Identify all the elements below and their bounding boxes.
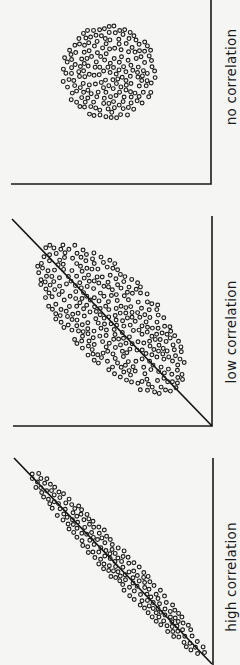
data-point bbox=[106, 65, 110, 69]
data-point bbox=[148, 344, 152, 348]
data-point bbox=[67, 527, 71, 531]
data-point bbox=[54, 302, 58, 306]
data-point bbox=[75, 318, 79, 322]
data-point bbox=[138, 49, 142, 53]
data-point bbox=[72, 79, 76, 83]
data-point bbox=[150, 302, 154, 306]
data-point bbox=[64, 309, 68, 313]
data-point bbox=[162, 316, 166, 320]
data-point bbox=[112, 100, 116, 104]
data-point bbox=[147, 308, 151, 312]
data-point bbox=[74, 51, 78, 55]
data-point bbox=[70, 72, 74, 76]
data-point bbox=[132, 329, 136, 333]
data-point bbox=[140, 357, 144, 361]
data-point bbox=[68, 48, 72, 52]
data-point bbox=[42, 495, 46, 499]
data-point bbox=[59, 308, 63, 312]
data-point bbox=[122, 294, 126, 298]
data-point bbox=[159, 385, 163, 389]
data-point bbox=[64, 71, 68, 75]
data-point bbox=[88, 522, 92, 526]
data-point bbox=[131, 68, 135, 72]
data-point bbox=[122, 370, 126, 374]
data-point bbox=[111, 352, 115, 356]
data-point bbox=[39, 477, 43, 481]
data-point bbox=[150, 59, 154, 63]
data-point bbox=[94, 106, 98, 110]
data-point bbox=[128, 31, 132, 35]
data-point bbox=[90, 531, 94, 535]
data-point bbox=[103, 37, 107, 41]
data-point bbox=[172, 635, 176, 639]
data-point bbox=[75, 304, 79, 308]
data-point bbox=[79, 264, 83, 268]
data-point bbox=[30, 477, 34, 481]
data-point bbox=[156, 326, 160, 330]
data-point bbox=[104, 52, 108, 56]
data-point bbox=[132, 598, 136, 602]
data-point bbox=[77, 70, 81, 74]
data-point bbox=[82, 314, 86, 318]
data-point bbox=[113, 560, 117, 564]
data-point bbox=[121, 33, 125, 37]
data-point bbox=[122, 588, 126, 592]
data-point bbox=[124, 83, 128, 87]
data-point bbox=[159, 588, 163, 592]
data-point bbox=[58, 314, 62, 318]
data-point bbox=[97, 550, 101, 554]
data-point bbox=[158, 602, 162, 606]
data-point bbox=[164, 601, 168, 605]
data-point bbox=[62, 67, 66, 71]
data-point bbox=[142, 571, 146, 575]
data-point bbox=[107, 84, 111, 88]
data-point bbox=[102, 102, 106, 106]
data-point bbox=[105, 534, 109, 538]
data-point bbox=[122, 280, 126, 284]
data-point bbox=[86, 321, 90, 325]
data-point bbox=[85, 303, 89, 307]
data-point bbox=[73, 43, 77, 47]
data-point bbox=[100, 536, 104, 540]
data-point bbox=[114, 72, 118, 76]
data-point bbox=[136, 381, 140, 385]
data-point bbox=[101, 351, 105, 355]
data-point bbox=[94, 310, 98, 314]
data-point bbox=[125, 378, 129, 382]
data-point bbox=[114, 576, 118, 580]
data-point bbox=[107, 315, 111, 319]
data-point bbox=[161, 347, 165, 351]
data-point bbox=[92, 296, 96, 300]
data-point bbox=[68, 305, 72, 309]
data-point bbox=[75, 324, 79, 328]
data-point bbox=[86, 551, 90, 555]
data-point bbox=[70, 328, 74, 332]
data-point bbox=[103, 27, 107, 31]
data-point bbox=[45, 477, 49, 481]
data-point bbox=[127, 561, 131, 565]
data-point bbox=[91, 519, 95, 523]
data-point bbox=[124, 311, 128, 315]
data-point bbox=[82, 50, 86, 54]
data-point bbox=[39, 283, 43, 287]
data-point bbox=[149, 595, 153, 599]
data-point bbox=[87, 273, 91, 277]
data-point bbox=[142, 365, 146, 369]
data-point bbox=[63, 507, 67, 511]
data-point bbox=[43, 280, 47, 284]
data-point bbox=[62, 298, 66, 302]
data-point bbox=[153, 76, 157, 80]
data-point bbox=[56, 263, 60, 267]
data-point bbox=[99, 55, 103, 59]
data-point bbox=[85, 253, 89, 257]
data-point bbox=[58, 496, 62, 500]
data-point bbox=[175, 624, 179, 628]
data-point bbox=[94, 33, 98, 37]
data-point bbox=[108, 47, 112, 51]
data-point bbox=[177, 635, 181, 639]
data-point bbox=[54, 252, 58, 256]
data-point bbox=[119, 113, 123, 117]
data-point bbox=[78, 301, 82, 305]
data-point bbox=[174, 354, 178, 358]
data-point bbox=[104, 42, 108, 46]
